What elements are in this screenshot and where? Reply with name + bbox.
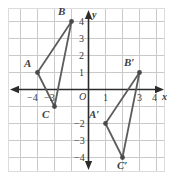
x-tick-label-4: 4 xyxy=(152,93,157,103)
vertex-a xyxy=(35,70,40,75)
y-axis-label: y xyxy=(92,10,96,20)
point-label-a: A xyxy=(24,58,31,69)
y-tick-label--2: −2 xyxy=(74,119,85,129)
point-label-c: C xyxy=(42,109,49,120)
vertex-a-prime xyxy=(103,121,108,126)
x-tick-label-1: 1 xyxy=(103,93,108,103)
y-tick-label-4: 4 xyxy=(79,17,84,27)
x-tick-label--3: −3 xyxy=(44,93,55,103)
y-tick-label-1: 1 xyxy=(79,68,84,78)
x-axis-label: x xyxy=(162,92,167,102)
plot-svg xyxy=(0,0,173,178)
vertex-b-prime xyxy=(137,70,142,75)
y-tick-label--4: −4 xyxy=(74,153,85,163)
vertex-b xyxy=(69,19,74,24)
x-tick-label--4: −4 xyxy=(27,93,38,103)
point-label-c-prime: C′ xyxy=(117,160,127,171)
y-tick-label-2: 2 xyxy=(79,51,84,61)
x-tick-label-3: 3 xyxy=(137,93,142,103)
y-tick-label--3: −3 xyxy=(74,136,85,146)
vertex-c xyxy=(52,104,57,109)
y-tick-label-3: 3 xyxy=(79,34,84,44)
point-label-b-prime: B′ xyxy=(124,57,134,68)
coordinate-plane-figure: −4 −3 1 3 4 4 3 2 1 −2 −3 −4 O x y A B C… xyxy=(0,0,173,178)
origin-label: O xyxy=(79,92,86,102)
point-label-a-prime: A′ xyxy=(89,109,99,120)
point-label-b: B xyxy=(58,6,65,17)
